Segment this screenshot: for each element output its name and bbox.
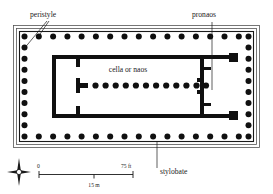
scale-feet-label: 75 ft (121, 163, 132, 169)
scale-meters-label: 15 m (88, 182, 100, 188)
pronaos-label: pronaos (192, 10, 216, 19)
compass-rose-icon (7, 158, 31, 186)
plan-drawing: peristyle pronaos stylobate cella or nao… (0, 0, 273, 194)
temple-plan-diagram: peristyle pronaos stylobate cella or nao… (0, 0, 273, 194)
cella-pier-head (76, 78, 80, 93)
cella-label: cella or naos (109, 65, 147, 74)
scale-bar: 0 75 ft 15 m (37, 163, 133, 188)
pronaos-anta-block-top (229, 53, 238, 62)
peristyle-label: peristyle (30, 10, 57, 19)
cella-crosswall-top (76, 59, 80, 67)
cella-crosswall-bottom (76, 106, 80, 114)
pronaos-anta-block-bottom (229, 111, 238, 120)
scale-bar-line (39, 171, 133, 179)
cella-door-jamb-bottom (197, 90, 203, 94)
cella-door-jamb-top (197, 78, 203, 82)
stylobate-label: stylobate (160, 167, 188, 176)
scale-zero-label: 0 (37, 163, 40, 169)
